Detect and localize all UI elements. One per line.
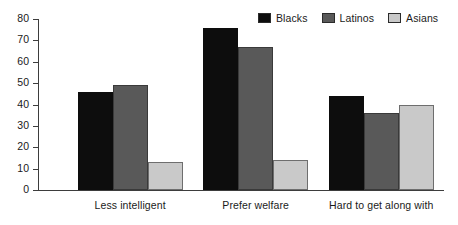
bar-group [203, 19, 308, 190]
y-tick-label: 10 [17, 162, 29, 175]
y-tick: 30 [33, 126, 38, 127]
bar [364, 113, 399, 190]
category-label: Less intelligent [95, 198, 166, 212]
bar [148, 162, 183, 190]
x-axis-line [38, 190, 444, 191]
y-tick: 20 [33, 147, 38, 148]
y-tick-label: 80 [17, 12, 29, 25]
y-tick: 70 [33, 40, 38, 41]
y-tick: 60 [33, 62, 38, 63]
bar-chart: Blacks Latinos Asians 01020304050607080 … [0, 0, 458, 225]
bar [273, 160, 308, 190]
bar [399, 105, 434, 191]
category-label: Prefer welfare [222, 198, 289, 212]
bar [329, 96, 364, 190]
y-tick-label: 20 [17, 140, 29, 153]
y-tick: 40 [33, 105, 38, 106]
y-tick: 10 [33, 169, 38, 170]
y-tick-label: 0 [23, 183, 29, 196]
bar [238, 47, 273, 190]
y-tick-label: 70 [17, 33, 29, 46]
y-tick: 0 [33, 190, 38, 191]
y-tick-label: 50 [17, 76, 29, 89]
y-tick-label: 30 [17, 119, 29, 132]
x-axis-category-labels: Less intelligentPrefer welfareHard to ge… [38, 198, 444, 214]
bar [203, 28, 238, 190]
y-tick: 80 [33, 19, 38, 20]
bar [78, 92, 113, 190]
y-tick-label: 60 [17, 55, 29, 68]
plot-area: 01020304050607080 [38, 19, 444, 190]
bar-groups [39, 19, 444, 190]
y-tick-label: 40 [17, 98, 29, 111]
bar-group [329, 19, 434, 190]
y-tick: 50 [33, 83, 38, 84]
category-label: Hard to get along with [329, 198, 433, 212]
bar [113, 85, 148, 190]
bar-group [78, 19, 183, 190]
